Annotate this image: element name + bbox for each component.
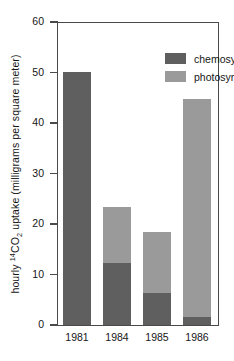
bar-segment-chemosynthesis xyxy=(103,263,131,325)
y-axis-title-suffix: uptake (milligrams per square meter) xyxy=(9,54,21,232)
bar-segment-chemosynthesis xyxy=(143,293,171,325)
x-axis-tick-label: 1985 xyxy=(137,331,177,343)
y-axis-tick-label: 0 xyxy=(0,318,44,330)
y-axis-tick xyxy=(50,274,58,275)
bar-segment-chemosynthesis xyxy=(183,317,211,325)
y-axis-title-element: CO xyxy=(9,237,21,253)
bar-segment-photosynthesis xyxy=(183,99,211,318)
y-axis-tick xyxy=(50,324,58,325)
y-axis-tick-label: 30 xyxy=(0,167,44,179)
bar-chart-figure: hourly 14CO2 uptake (milligrams per squa… xyxy=(0,0,234,361)
bar-segment-chemosynthesis xyxy=(63,72,91,326)
x-axis-tick-label: 1984 xyxy=(97,331,137,343)
x-axis-tick-label: 1981 xyxy=(57,331,97,343)
y-axis-title-superscript: 14 xyxy=(8,253,17,261)
y-axis-title-subscript: 2 xyxy=(15,233,24,237)
bar-group xyxy=(143,22,171,325)
y-axis-tick-label: 50 xyxy=(0,66,44,78)
bar-segment-photosynthesis xyxy=(103,207,131,263)
y-axis-tick xyxy=(50,21,58,22)
y-axis-title-container: hourly 14CO2 uptake (milligrams per squa… xyxy=(0,0,22,361)
bar-group xyxy=(63,22,91,325)
bar-segment-photosynthesis xyxy=(143,232,171,293)
y-axis-tick xyxy=(50,122,58,123)
bar-group xyxy=(183,22,211,325)
y-axis-tick xyxy=(50,223,58,224)
y-axis-tick xyxy=(50,72,58,73)
x-axis-baseline xyxy=(57,325,218,326)
y-axis-tick-label: 40 xyxy=(0,116,44,128)
y-axis-tick-label: 20 xyxy=(0,217,44,229)
y-axis-tick xyxy=(50,173,58,174)
bar-group xyxy=(103,22,131,325)
y-axis-tick-label: 10 xyxy=(0,268,44,280)
x-axis-tick-label: 1986 xyxy=(177,331,217,343)
y-axis-tick-label: 60 xyxy=(0,15,44,27)
